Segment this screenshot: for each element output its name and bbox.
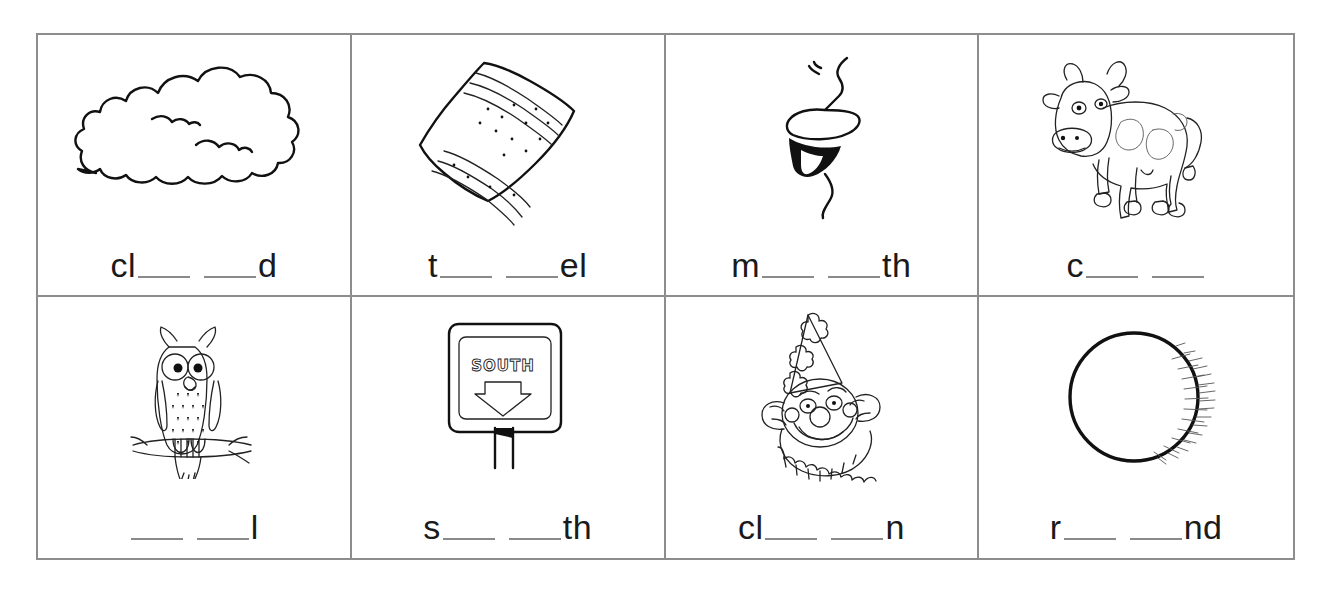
blank-line[interactable]: [1130, 538, 1182, 540]
prompt-mouth: m th: [666, 231, 978, 297]
owl-icon: [38, 297, 350, 493]
blank-line[interactable]: [440, 276, 492, 278]
prompt-owl: l: [38, 493, 350, 559]
prompt-tail: nd: [1184, 510, 1223, 544]
sign-text: SOUTH: [471, 357, 535, 375]
blank-line[interactable]: [765, 538, 817, 540]
prompt-cow: c: [979, 231, 1293, 297]
prompt-lead: cl: [738, 510, 764, 544]
mouth-icon: [666, 35, 978, 231]
blank-line[interactable]: [1152, 276, 1204, 278]
prompt-tail: th: [563, 510, 592, 544]
cloud-icon: [38, 35, 350, 231]
blank-line[interactable]: [197, 538, 249, 540]
cow-icon: [979, 35, 1293, 231]
blank-line[interactable]: [204, 276, 256, 278]
worksheet-cell-mouth[interactable]: m th: [666, 35, 980, 297]
prompt-lead: m: [731, 248, 760, 282]
prompt-lead: t: [428, 248, 438, 282]
prompt-tail: th: [882, 248, 911, 282]
worksheet-grid: cl d: [36, 33, 1295, 560]
blank-line[interactable]: [509, 538, 561, 540]
prompt-lead: cl: [110, 248, 136, 282]
round-ball-icon: [979, 297, 1293, 493]
prompt-round: r nd: [979, 493, 1293, 559]
worksheet-cell-clown[interactable]: cl n: [666, 297, 980, 559]
clown-icon: [666, 297, 978, 493]
prompt-lead: c: [1066, 248, 1084, 282]
worksheet-cell-towel[interactable]: t el: [352, 35, 666, 297]
blank-line[interactable]: [138, 276, 190, 278]
blank-line[interactable]: [443, 538, 495, 540]
blank-line[interactable]: [1064, 538, 1116, 540]
worksheet-cell-cloud[interactable]: cl d: [38, 35, 352, 297]
prompt-tail: el: [560, 248, 587, 282]
prompt-towel: t el: [352, 231, 664, 297]
blank-line[interactable]: [1086, 276, 1138, 278]
worksheet-page: cl d: [0, 0, 1335, 592]
towel-icon: [352, 35, 664, 231]
prompt-lead: r: [1050, 510, 1062, 544]
prompt-south: s th: [352, 493, 664, 559]
blank-line[interactable]: [131, 538, 183, 540]
prompt-clown: cl n: [666, 493, 978, 559]
prompt-tail: l: [251, 510, 259, 544]
blank-line[interactable]: [762, 276, 814, 278]
prompt-tail: d: [258, 248, 277, 282]
worksheet-cell-round[interactable]: r nd: [979, 297, 1293, 559]
blank-line[interactable]: [828, 276, 880, 278]
prompt-lead: s: [423, 510, 441, 544]
worksheet-cell-south[interactable]: SOUTH s th: [352, 297, 666, 559]
worksheet-cell-cow[interactable]: c: [979, 35, 1293, 297]
south-sign-icon: SOUTH: [352, 297, 664, 493]
blank-line[interactable]: [831, 538, 883, 540]
blank-line[interactable]: [506, 276, 558, 278]
prompt-tail: n: [885, 510, 904, 544]
prompt-cloud: cl d: [38, 231, 350, 297]
worksheet-cell-owl[interactable]: l: [38, 297, 352, 559]
